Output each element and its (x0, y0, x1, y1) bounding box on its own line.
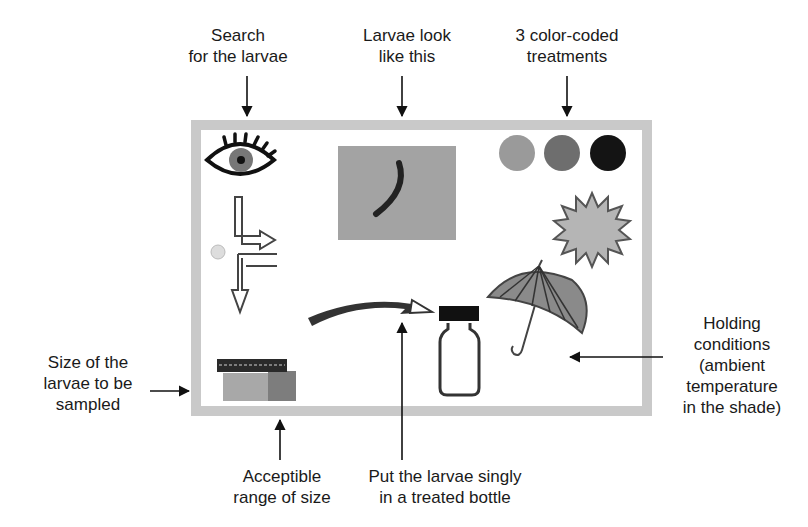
bead-icon (211, 245, 225, 259)
flow-arrow-right-icon (235, 197, 275, 249)
treatment-1-icon (499, 135, 535, 171)
eye-icon (207, 134, 275, 174)
treatment-2-icon (544, 135, 580, 171)
treatment-circles (499, 135, 626, 171)
flow-arrow-down-icon (232, 254, 277, 312)
bottle-icon (439, 306, 479, 395)
diagram-canvas (0, 0, 808, 527)
callout-arrows (150, 76, 663, 460)
size-sample-icon (217, 359, 296, 401)
larva-photo (338, 146, 456, 240)
transfer-arrow-icon (308, 300, 432, 326)
sun-icon (554, 193, 630, 267)
umbrella-icon (488, 260, 587, 355)
treatment-3-icon (590, 135, 626, 171)
